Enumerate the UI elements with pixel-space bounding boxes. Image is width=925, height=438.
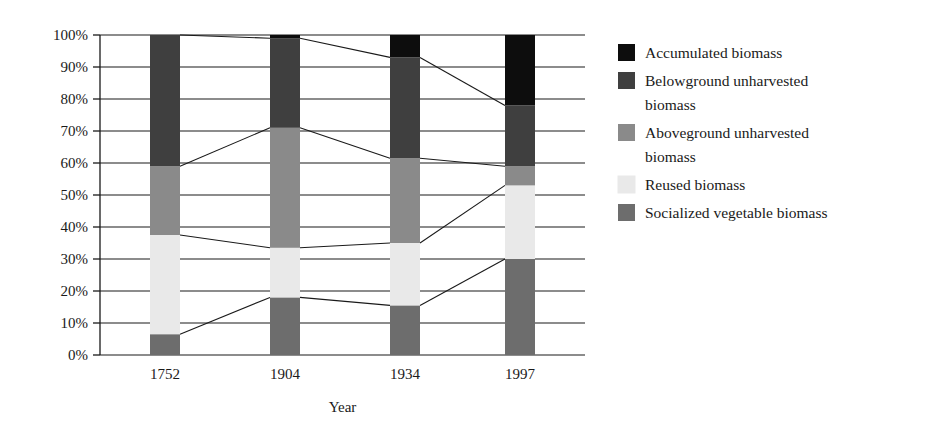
- x-tick-label-1752: 1752: [150, 366, 180, 382]
- legend-swatch-icon: [618, 72, 635, 89]
- y-tick-label: 50%: [61, 187, 89, 203]
- legend-label: Aboveground unharvested: [645, 124, 809, 141]
- bar-segment: [150, 334, 180, 355]
- bar-1997: [505, 35, 535, 355]
- x-tick-label-1904: 1904: [270, 366, 301, 382]
- bar-segment: [270, 128, 300, 248]
- bar-1904: [270, 35, 300, 355]
- connector-line: [300, 243, 390, 248]
- connector-lines: [180, 35, 505, 334]
- y-tick-label: 80%: [61, 91, 89, 107]
- bar-segment: [270, 35, 300, 38]
- connector-line: [420, 185, 505, 243]
- y-tick-label: 10%: [61, 315, 89, 331]
- connector-line: [420, 259, 505, 305]
- bar-segment: [390, 305, 420, 355]
- legend-label: Socialized vegetable biomass: [645, 204, 828, 221]
- y-tick-label: 40%: [61, 219, 89, 235]
- bar-1934: [390, 35, 420, 355]
- y-axis-tick-labels: 0%10%20%30%40%50%60%70%80%90%100%: [53, 27, 88, 363]
- legend-item-2[interactable]: Aboveground unharvestedbiomass: [618, 124, 809, 165]
- bar-segment: [505, 35, 535, 105]
- connector-line: [180, 297, 270, 334]
- bar-segment: [150, 235, 180, 334]
- legend-swatch-icon: [618, 176, 635, 193]
- x-axis-tick-labels: 1752190419341997: [150, 366, 536, 382]
- connector-line: [300, 128, 390, 158]
- y-tick-label: 60%: [61, 155, 89, 171]
- bar-segment: [270, 297, 300, 355]
- x-tick-label-1997: 1997: [505, 366, 536, 382]
- legend-label: biomass: [645, 148, 696, 165]
- legend-swatch-icon: [618, 204, 635, 221]
- axis-lines: [93, 35, 100, 355]
- bar-segment: [390, 243, 420, 305]
- x-axis-title: Year: [329, 399, 357, 415]
- bar-segment: [390, 57, 420, 158]
- x-tick-label-1934: 1934: [390, 366, 421, 382]
- bar-segment: [150, 35, 180, 166]
- stacked-bar-chart: 0%10%20%30%40%50%60%70%80%90%100% 175219…: [0, 0, 925, 438]
- connector-line: [300, 297, 390, 305]
- y-tick-label: 0%: [68, 347, 88, 363]
- x-axis-title-text: Year: [329, 399, 357, 415]
- bar-segment: [505, 259, 535, 355]
- legend-item-4[interactable]: Socialized vegetable biomass: [618, 204, 828, 221]
- y-tick-label: 70%: [61, 123, 89, 139]
- y-tick-label: 90%: [61, 59, 89, 75]
- connector-line: [420, 57, 505, 105]
- legend-item-3[interactable]: Reused biomass: [618, 176, 745, 193]
- bar-segment: [505, 166, 535, 185]
- connector-line: [180, 235, 270, 248]
- chart-container: 0%10%20%30%40%50%60%70%80%90%100% 175219…: [0, 0, 925, 438]
- bar-segment: [390, 35, 420, 57]
- legend-item-0[interactable]: Accumulated biomass: [618, 44, 782, 61]
- bar-segment: [150, 166, 180, 235]
- connector-line: [300, 38, 390, 57]
- connector-line: [180, 128, 270, 166]
- bar-segment: [505, 185, 535, 259]
- y-tick-label: 30%: [61, 251, 89, 267]
- bar-1752: [150, 35, 180, 355]
- legend-label: Reused biomass: [645, 176, 745, 193]
- y-tick-label: 100%: [53, 27, 88, 43]
- legend-swatch-icon: [618, 44, 635, 61]
- bar-segment: [270, 38, 300, 128]
- legend-swatch-icon: [618, 124, 635, 141]
- legend: Accumulated biomassBelowground unharvest…: [618, 44, 828, 221]
- bar-segment: [505, 105, 535, 166]
- connector-line: [420, 158, 505, 166]
- legend-label: Accumulated biomass: [645, 44, 782, 61]
- y-tick-label: 20%: [61, 283, 89, 299]
- legend-label: biomass: [645, 96, 696, 113]
- bar-segment: [390, 158, 420, 243]
- legend-item-1[interactable]: Belowground unharvestedbiomass: [618, 72, 808, 113]
- legend-label: Belowground unharvested: [645, 72, 808, 89]
- bar-segment: [270, 248, 300, 298]
